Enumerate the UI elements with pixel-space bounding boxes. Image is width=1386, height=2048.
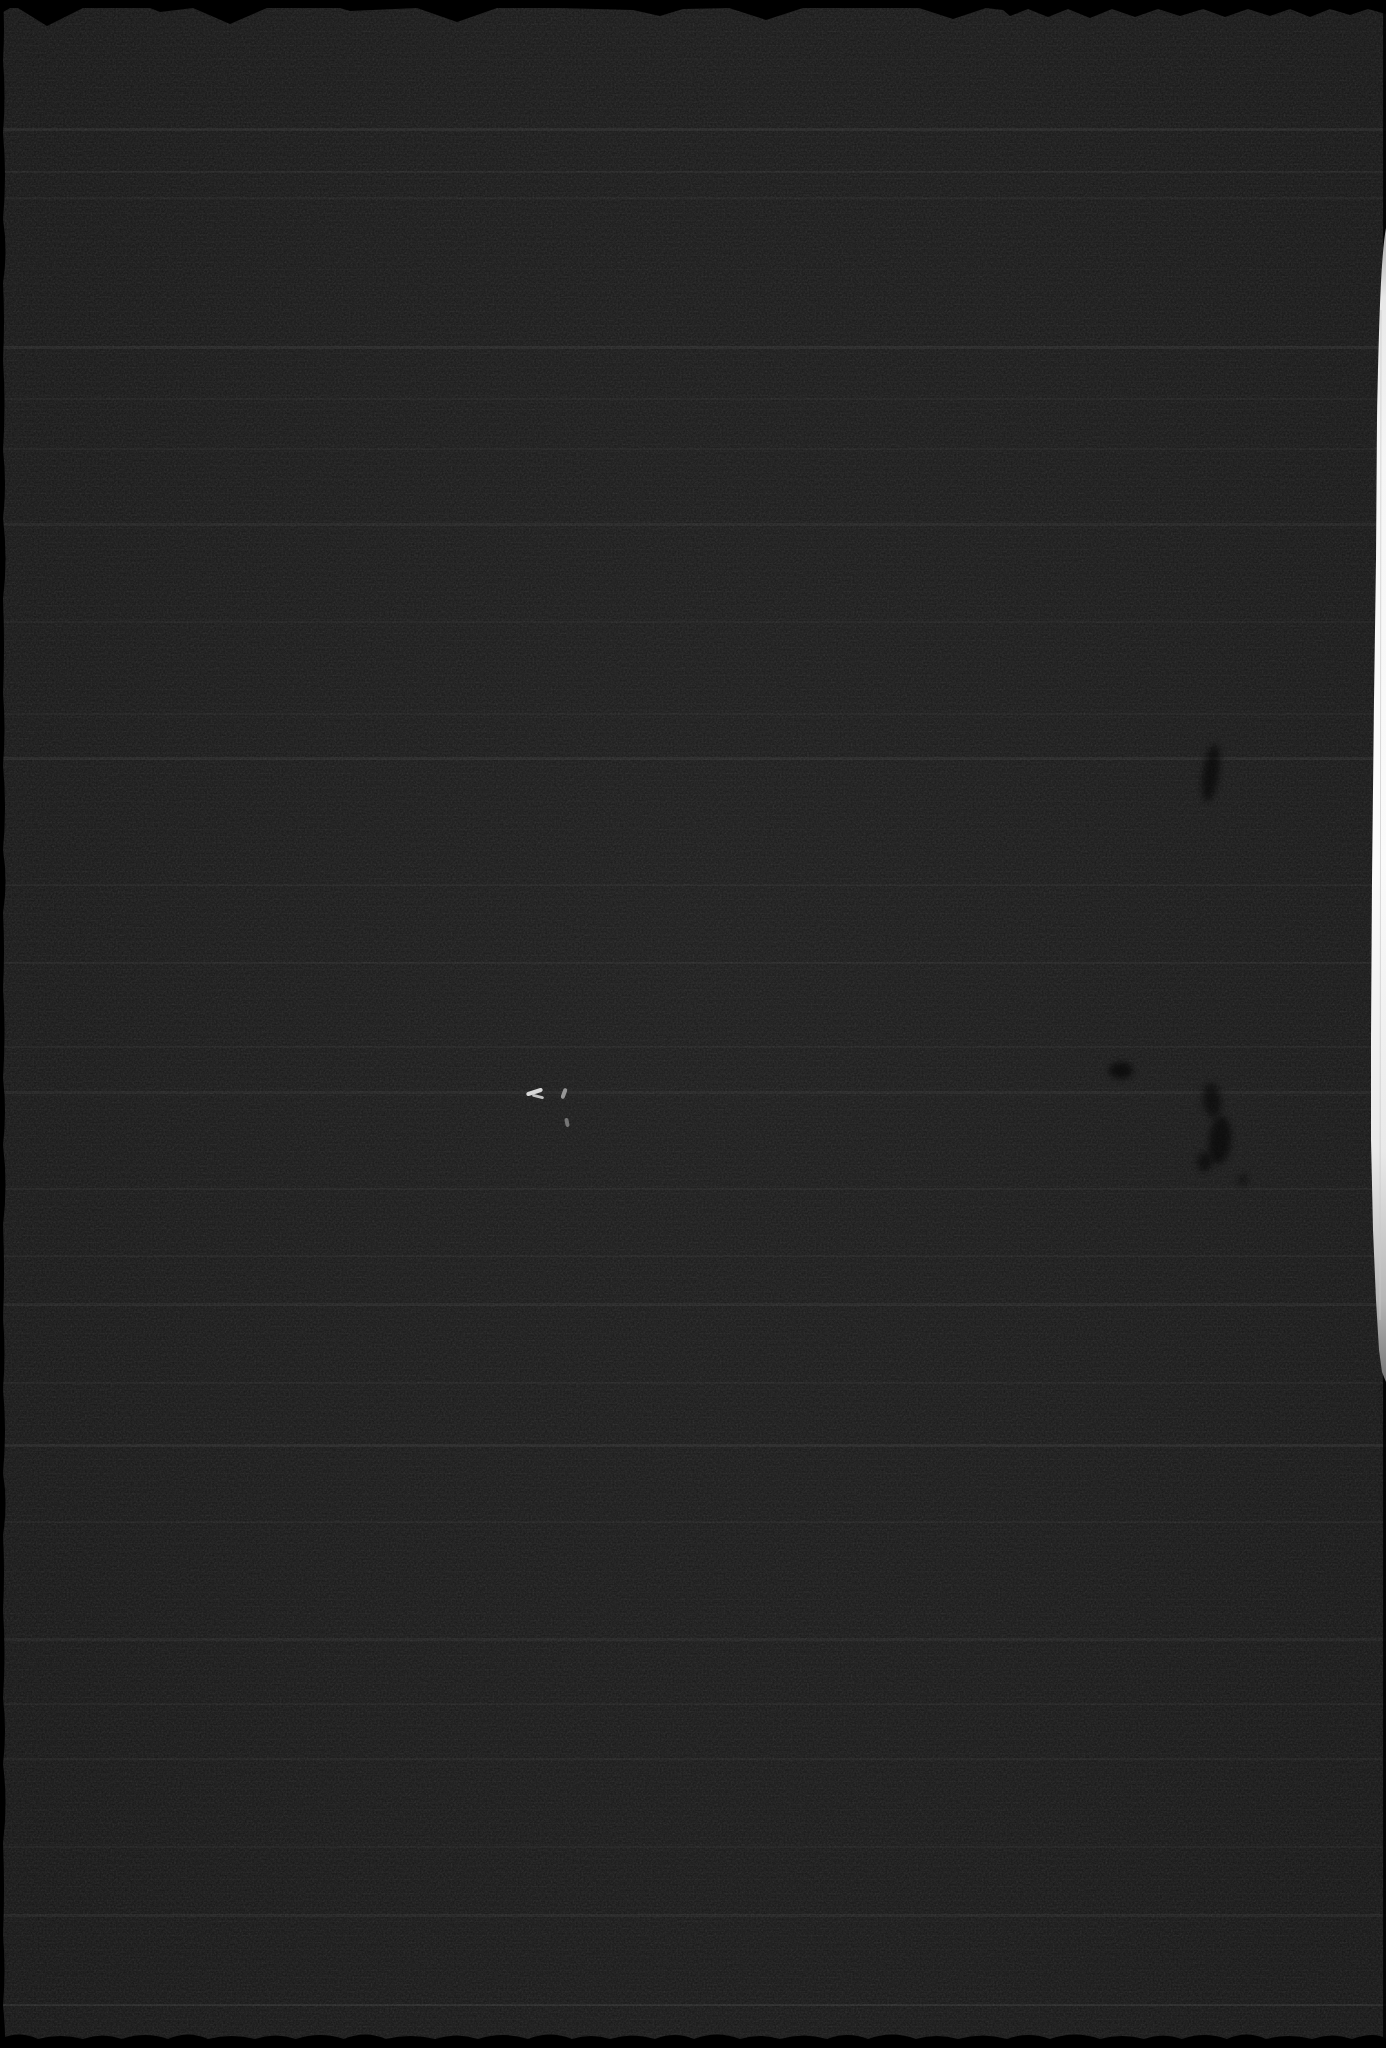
scanned-page (0, 0, 1386, 2048)
left-deckle-edge (0, 0, 6, 2048)
bottom-deckle-edge (0, 2035, 1386, 2048)
page-edges (0, 0, 1386, 2048)
right-paper-gap (1371, 228, 1386, 1382)
top-deckle-edge (0, 0, 1386, 26)
